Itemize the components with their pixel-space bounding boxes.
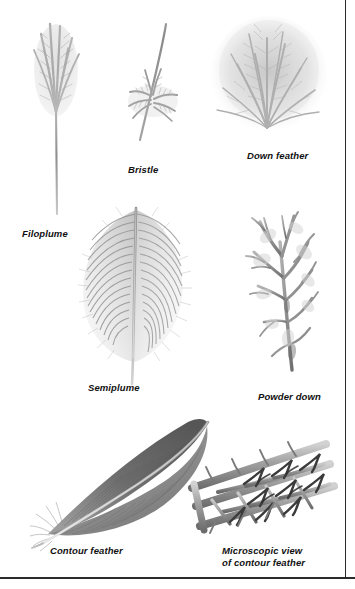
page-bottom-rule	[0, 577, 355, 579]
page-right-rule	[345, 0, 346, 578]
caption-powder-down: Powder down	[258, 391, 321, 403]
caption-contour-feather: Contour feather	[50, 545, 123, 557]
filoplume-feather-illustration	[16, 8, 96, 218]
powder-down-feather-illustration	[238, 202, 328, 377]
semiplume-feather-illustration	[70, 198, 205, 388]
feather-types-figure: Filoplume Bristle Down feather Semiplume…	[0, 0, 355, 589]
bristle-feather-illustration	[118, 22, 198, 152]
caption-filoplume: Filoplume	[22, 228, 68, 240]
caption-bristle: Bristle	[128, 164, 158, 176]
caption-microscopic-view: Microscopic view of contour feather	[222, 545, 305, 568]
feather-barbule-microscopic-illustration	[188, 430, 338, 540]
caption-down-feather: Down feather	[247, 150, 308, 162]
down-feather-illustration	[205, 10, 335, 145]
caption-semiplume: Semiplume	[88, 382, 140, 394]
